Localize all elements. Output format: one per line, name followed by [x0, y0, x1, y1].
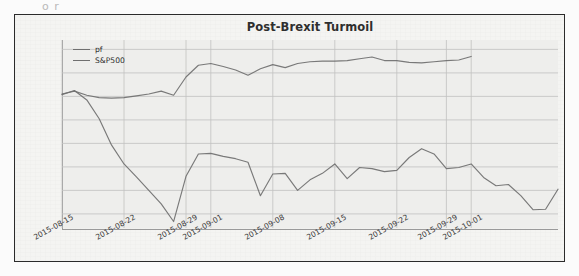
legend-label-sp500: S&P500	[95, 56, 125, 65]
x-axis-ticks: 2015-08-152015-08-222015-08-292015-09-01…	[0, 0, 579, 276]
x-tick-label: 2015-09-22	[367, 213, 410, 242]
figure-root: o r Post-Brexit Turmoil 0.040.020.00-0.0…	[0, 0, 579, 276]
legend-item[interactable]: S&P500	[73, 55, 125, 66]
legend-swatch-sp500	[73, 60, 90, 61]
legend-swatch-pf	[73, 49, 90, 50]
legend-item[interactable]: pf	[73, 44, 125, 55]
chart-legend: pf S&P500	[70, 43, 128, 67]
legend-label-pf: pf	[95, 45, 103, 54]
x-tick-label: 2015-09-15	[305, 213, 348, 242]
x-tick-label: 2015-08-22	[94, 213, 137, 242]
x-tick-label: 2015-09-08	[243, 213, 286, 242]
x-tick-label: 2015-08-15	[32, 213, 75, 242]
